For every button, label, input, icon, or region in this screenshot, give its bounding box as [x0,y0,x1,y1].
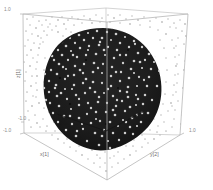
axis-label-z: z[1] [16,69,21,78]
tick-label-x-min: -1.0 [3,129,11,134]
plot-canvas: 1.0 -1.0 -1.0 1.0 z[1] x[1] y[2] [0,0,213,190]
axis-label-x: x[1] [40,152,49,157]
tick-label-z-min: -1.0 [18,117,26,122]
scatter-3d-svg [0,0,213,190]
axis-label-y: y[2] [150,152,159,157]
tick-label-y-max: 1.0 [189,129,196,134]
unit-ball-body [44,28,162,150]
tick-label-z-max: 1.0 [4,8,11,13]
